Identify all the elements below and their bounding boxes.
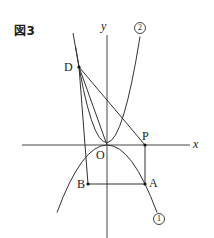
label-D: D: [64, 61, 73, 73]
segment-D-extension: [73, 33, 79, 67]
parabola-2: [76, 37, 141, 143]
label-P: P: [142, 130, 149, 142]
x-axis-label: x: [193, 138, 198, 150]
point-P: [143, 143, 146, 146]
point-B: [86, 182, 89, 185]
label-A: A: [149, 177, 158, 189]
curve-label-1: 1: [153, 213, 165, 225]
segment-DO: [79, 67, 107, 145]
figure-3: 図3 y x O D P A B 2 1: [0, 0, 214, 238]
diagram-canvas: [0, 0, 214, 238]
label-B: B: [77, 178, 85, 190]
y-axis-label: y: [101, 20, 106, 32]
point-A: [143, 182, 146, 185]
point-D: [77, 65, 80, 68]
origin-label: O: [96, 149, 105, 161]
curve-label-2: 2: [134, 22, 146, 34]
segment-DP: [79, 67, 145, 145]
segment-DB: [79, 67, 88, 184]
